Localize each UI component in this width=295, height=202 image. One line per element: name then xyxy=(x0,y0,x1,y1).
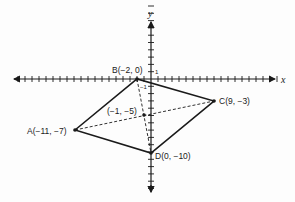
label-point-d: D(0, −10) xyxy=(155,151,191,161)
tick-label-negative-one: −1 xyxy=(140,84,148,90)
point-b xyxy=(135,77,139,81)
label-point-c: C(9, −3) xyxy=(219,96,250,106)
y-axis-label: y xyxy=(147,8,153,19)
tick-label-positive-one: 1 xyxy=(155,69,159,75)
y-axis xyxy=(148,6,154,192)
x-axis-label: x xyxy=(280,74,286,85)
label-midpoint: (−1, −5) xyxy=(107,106,137,116)
diagram-svg: x y 1 −1 A(−11, −7) B(−2, 0) C(9, −3) D(… xyxy=(0,0,295,202)
point-midpoint xyxy=(142,113,146,117)
point-a xyxy=(73,128,77,132)
label-point-b: B(−2, 0) xyxy=(112,65,143,75)
coordinate-plane-figure: x y 1 −1 A(−11, −7) B(−2, 0) C(9, −3) D(… xyxy=(0,0,295,202)
label-point-a: A(−11, −7) xyxy=(27,126,67,136)
point-d xyxy=(149,151,153,155)
point-c xyxy=(212,99,216,103)
